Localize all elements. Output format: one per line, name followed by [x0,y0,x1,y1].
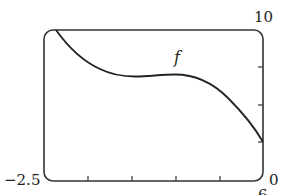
ymin-label: 0 [269,171,279,189]
series-f-line [56,30,263,142]
xmax-label: 6 [258,186,268,195]
chart: f 10 0 −2.5 6 [0,0,285,195]
xmin-label: −2.5 [4,171,40,189]
ymax-label: 10 [254,8,273,26]
series-f-label: f [173,48,183,67]
